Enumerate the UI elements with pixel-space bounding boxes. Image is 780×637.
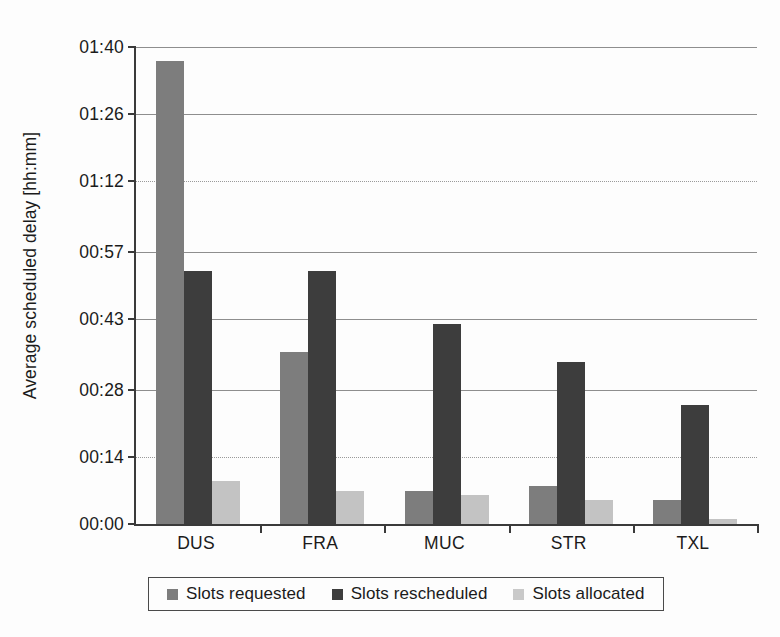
bar-dus-slots-allocated [212, 481, 240, 524]
bar-str-slots-allocated [585, 500, 613, 524]
bar-group-dus [156, 47, 240, 524]
x-axis-tick-label-dus: DUS [177, 533, 215, 554]
bar-muc-slots-rescheduled [433, 324, 461, 524]
bar-fra-slots-allocated [336, 491, 364, 524]
bar-txl-slots-requested [653, 500, 681, 524]
x-axis-tick-label-fra: FRA [302, 533, 338, 554]
bar-txl-slots-allocated [709, 519, 737, 524]
legend-swatch-icon [332, 589, 343, 600]
legend-swatch-icon [513, 589, 524, 600]
y-axis-tick-label: 00:43 [79, 308, 124, 329]
y-axis-tick-label: 00:28 [79, 380, 124, 401]
legend-item-label: Slots allocated [532, 584, 644, 604]
y-axis-tick-label: 00:57 [79, 242, 124, 263]
legend-item-label: Slots rescheduled [351, 584, 488, 604]
x-axis-tick-mark [260, 524, 262, 533]
bar-group-muc [405, 47, 489, 524]
y-axis-tick-mark [128, 389, 136, 391]
x-axis-tick-mark [633, 524, 635, 533]
y-axis-tick-mark [128, 113, 136, 115]
x-axis-tick-label-muc: MUC [424, 533, 465, 554]
legend-swatch-icon [167, 589, 178, 600]
y-axis-tick-mark [128, 180, 136, 182]
bar-group-txl [653, 47, 737, 524]
bar-dus-slots-rescheduled [184, 271, 212, 524]
bar-fra-slots-requested [280, 352, 308, 524]
x-axis-tick-label-txl: TXL [676, 533, 709, 554]
y-axis-tick-mark [128, 318, 136, 320]
y-axis-tick-label: 01:40 [79, 37, 124, 58]
x-axis-tick-mark [757, 524, 759, 533]
bar-str-slots-requested [529, 486, 557, 524]
bar-dus-slots-requested [156, 61, 184, 524]
y-axis-tick-label: 00:00 [79, 514, 124, 535]
plot-area [134, 47, 757, 526]
legend-item-slots-requested[interactable]: Slots requested [167, 584, 306, 604]
y-axis-tick-mark [128, 251, 136, 253]
bar-fra-slots-rescheduled [308, 271, 336, 524]
bar-muc-slots-allocated [461, 495, 489, 524]
legend-item-label: Slots requested [186, 584, 306, 604]
y-axis-tick-mark [128, 46, 136, 48]
chart-legend: Slots requestedSlots rescheduledSlots al… [148, 577, 664, 611]
bar-muc-slots-requested [405, 491, 433, 524]
legend-item-slots-allocated[interactable]: Slots allocated [513, 584, 644, 604]
chart-screenshot: Average scheduled delay [hh:mm] 01:4001:… [0, 0, 780, 637]
legend-item-slots-rescheduled[interactable]: Slots rescheduled [332, 584, 488, 604]
x-axis-tick-labels: DUSFRAMUCSTRTXL [134, 533, 755, 563]
y-axis-title-text: Average scheduled delay [hh:mm] [21, 131, 42, 398]
y-axis-tick-mark [128, 456, 136, 458]
y-axis-tick-labels: 01:4001:2601:1200:5700:4300:2800:1400:00 [52, 0, 130, 637]
x-axis-tick-mark [384, 524, 386, 533]
y-axis-title: Average scheduled delay [hh:mm] [10, 0, 52, 530]
bar-str-slots-rescheduled [557, 362, 585, 524]
bar-txl-slots-rescheduled [681, 405, 709, 524]
y-axis-tick-label: 01:26 [79, 103, 124, 124]
y-axis-tick-label: 01:12 [79, 170, 124, 191]
x-axis-tick-label-str: STR [551, 533, 587, 554]
bar-group-fra [280, 47, 364, 524]
y-axis-tick-label: 00:14 [79, 447, 124, 468]
y-axis-tick-mark [128, 523, 136, 525]
x-axis-tick-mark [509, 524, 511, 533]
bar-group-str [529, 47, 613, 524]
